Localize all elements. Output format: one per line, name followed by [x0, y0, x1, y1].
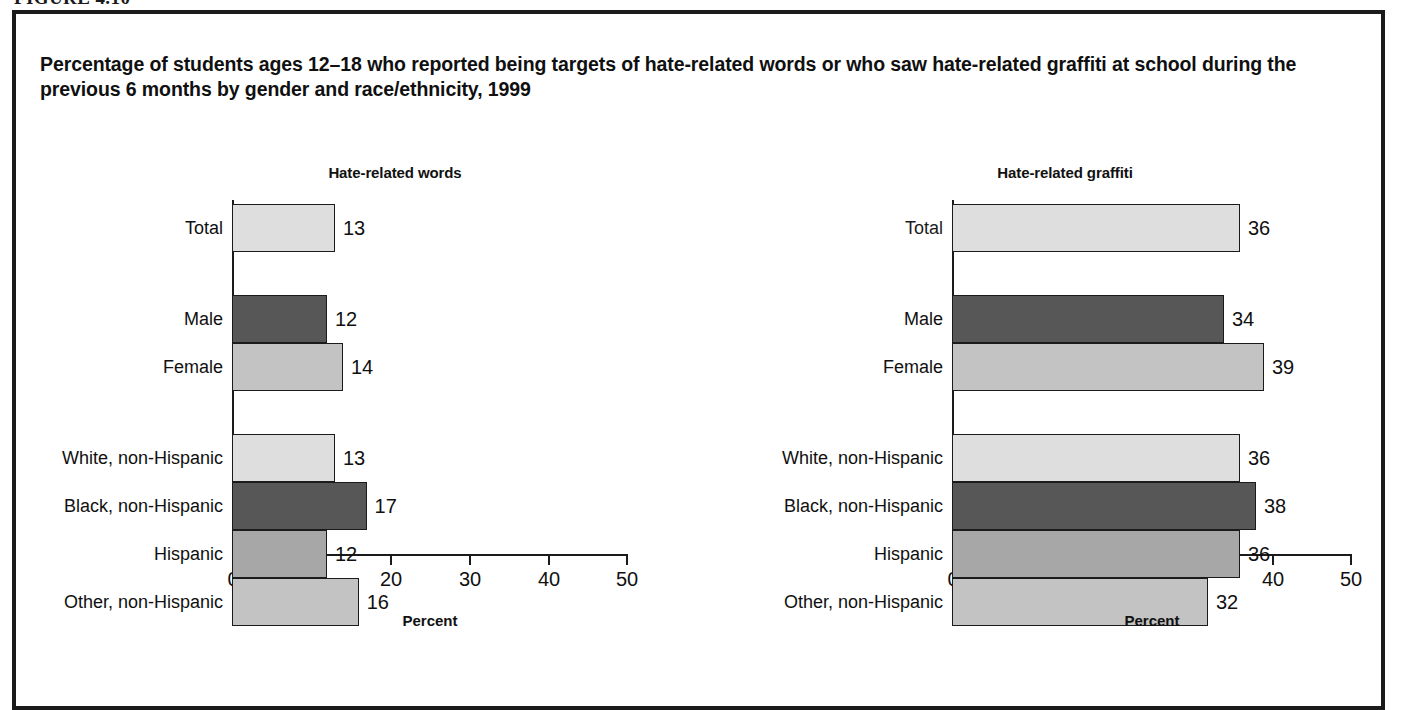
bar-label-total: Total: [905, 218, 943, 239]
bar-row-hispanic: Hispanic 36: [952, 530, 1352, 578]
bar-value-female: 39: [1264, 356, 1294, 379]
bar-row-female: Female 39: [952, 343, 1352, 391]
bar-label-hispanic: Hispanic: [874, 544, 943, 565]
bar-row-black-non-hispanic: Black, non-Hispanic 17: [232, 482, 628, 530]
bar-row-male: Male 34: [952, 295, 1352, 343]
bar-label-black-non-hispanic: Black, non-Hispanic: [784, 496, 943, 517]
bar-value-female: 14: [343, 356, 373, 379]
bar-male: [232, 295, 327, 343]
bar-value-white-non-hispanic: 36: [1240, 447, 1270, 470]
chart-title-hate-related-words: Hate-related words: [0, 164, 700, 181]
bar-label-female: Female: [163, 357, 223, 378]
bar-value-hispanic: 12: [327, 543, 357, 566]
bar-row-black-non-hispanic: Black, non-Hispanic 38: [952, 482, 1352, 530]
bar-male: [952, 295, 1224, 343]
bar-row-total: Total 13: [232, 204, 628, 252]
bar-total: [232, 204, 335, 252]
bar-label-white-non-hispanic: White, non-Hispanic: [62, 448, 223, 469]
chart-panel-hate-related-graffiti: Hate-related graffiti 0 10 20 30 40 50 T…: [700, 150, 1400, 670]
figure-number: FIGURE 4.10: [14, 0, 130, 9]
bar-label-other-non-hispanic: Other, non-Hispanic: [784, 592, 943, 613]
bar-white-non-hispanic: [952, 434, 1240, 482]
bar-label-female: Female: [883, 357, 943, 378]
figure-title: Percentage of students ages 12–18 who re…: [40, 52, 1340, 102]
bar-hispanic: [952, 530, 1240, 578]
bar-row-white-non-hispanic: White, non-Hispanic 36: [952, 434, 1352, 482]
bar-value-other-non-hispanic: 16: [359, 591, 389, 614]
bar-hispanic: [232, 530, 327, 578]
bar-value-white-non-hispanic: 13: [335, 447, 365, 470]
bar-female: [952, 343, 1264, 391]
x-axis-caption-graffiti: Percent: [952, 612, 1352, 629]
bar-row-white-non-hispanic: White, non-Hispanic 13: [232, 434, 628, 482]
x-axis-caption-words: Percent: [232, 612, 628, 629]
bar-white-non-hispanic: [232, 434, 335, 482]
bar-value-black-non-hispanic: 38: [1256, 495, 1286, 518]
bar-female: [232, 343, 343, 391]
bar-black-non-hispanic: [952, 482, 1256, 530]
bar-row-hispanic: Hispanic 12: [232, 530, 628, 578]
bar-total: [952, 204, 1240, 252]
bar-label-total: Total: [185, 218, 223, 239]
bar-label-black-non-hispanic: Black, non-Hispanic: [64, 496, 223, 517]
bar-value-total: 13: [335, 217, 365, 240]
chart-title-hate-related-graffiti: Hate-related graffiti: [700, 164, 1400, 181]
bar-value-male: 12: [327, 308, 357, 331]
bar-label-white-non-hispanic: White, non-Hispanic: [782, 448, 943, 469]
bar-label-male: Male: [904, 309, 943, 330]
bar-label-male: Male: [184, 309, 223, 330]
plot-area-hate-related-graffiti: 0 10 20 30 40 50 Total 36 Male 34 Female…: [952, 200, 1352, 560]
bar-black-non-hispanic: [232, 482, 367, 530]
bar-label-hispanic: Hispanic: [154, 544, 223, 565]
bar-value-other-non-hispanic: 32: [1208, 591, 1238, 614]
bar-value-male: 34: [1224, 308, 1254, 331]
bar-value-total: 36: [1240, 217, 1270, 240]
bar-row-male: Male 12: [232, 295, 628, 343]
bar-label-other-non-hispanic: Other, non-Hispanic: [64, 592, 223, 613]
bar-row-total: Total 36: [952, 204, 1352, 252]
bar-value-hispanic: 36: [1240, 543, 1270, 566]
bar-row-female: Female 14: [232, 343, 628, 391]
chart-panel-hate-related-words: Hate-related words 0 10 20 30 40 50 Tota…: [0, 150, 700, 670]
bar-value-black-non-hispanic: 17: [367, 495, 397, 518]
plot-area-hate-related-words: 0 10 20 30 40 50 Total 13 Male 12 Female…: [232, 200, 628, 560]
